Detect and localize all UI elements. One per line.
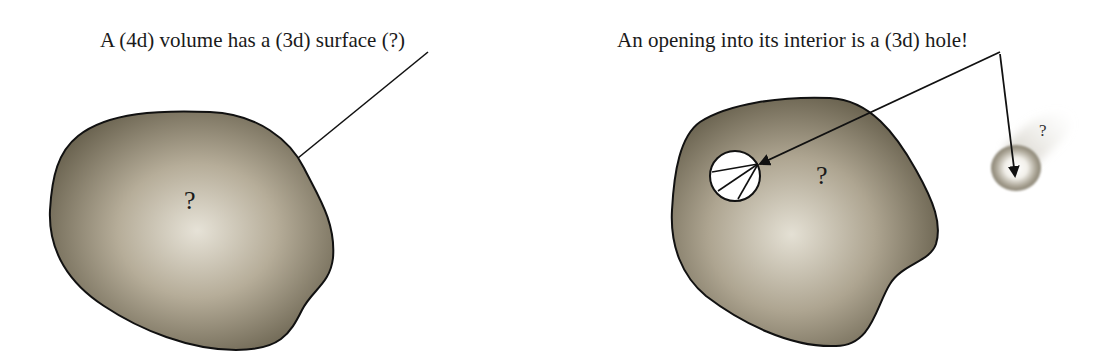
left-blob-question-mark: ?	[184, 188, 196, 214]
left-leader-line	[298, 52, 428, 158]
diagram-canvas: A (4d) volume has a (3d) surface (?) An …	[0, 0, 1095, 362]
hole-opening-icon	[710, 151, 760, 201]
left-blob-shape	[50, 111, 333, 350]
left-caption: A (4d) volume has a (3d) surface (?)	[100, 30, 405, 51]
left-volume-blob	[50, 111, 333, 350]
right-volume-blob	[672, 98, 938, 346]
diagram-svg	[0, 0, 1095, 362]
small-sphere	[991, 112, 1071, 191]
sphere-question-mark: ?	[1039, 122, 1047, 139]
right-blob-question-mark: ?	[816, 163, 828, 189]
right-caption: An opening into its interior is a (3d) h…	[617, 30, 968, 51]
right-blob-shape	[672, 98, 938, 346]
